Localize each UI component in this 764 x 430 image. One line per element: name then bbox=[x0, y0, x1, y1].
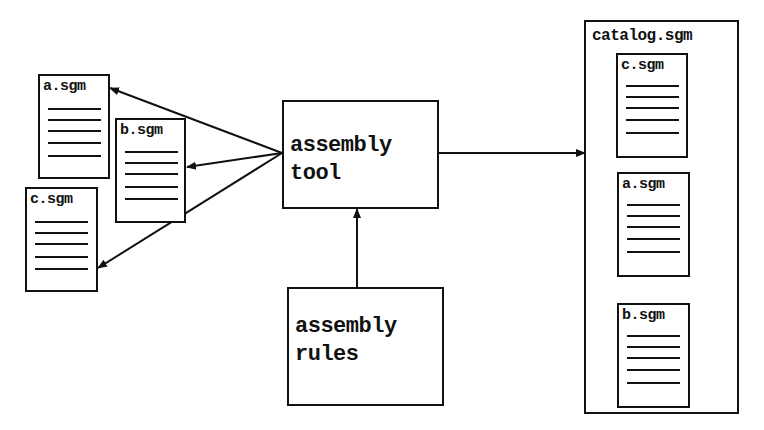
doc-text-line bbox=[125, 162, 178, 164]
arrow-tool-to-b bbox=[187, 153, 282, 167]
doc-text-line bbox=[627, 215, 680, 217]
doc-text-line bbox=[627, 238, 680, 240]
source-doc-c: c.sgm bbox=[25, 187, 98, 292]
catalog-title: catalog.sgm bbox=[592, 27, 692, 45]
doc-text-line bbox=[48, 119, 101, 121]
doc-text-line bbox=[627, 251, 680, 253]
doc-text-line bbox=[35, 232, 88, 234]
doc-text-line bbox=[125, 186, 178, 188]
doc-text-line bbox=[626, 132, 679, 134]
catalog-doc-b: b.sgm bbox=[617, 303, 690, 408]
doc-text-line bbox=[48, 108, 101, 110]
doc-title: a.sgm bbox=[622, 176, 665, 193]
doc-text-line bbox=[125, 198, 178, 200]
assembly-tool-label: assembly tool bbox=[290, 132, 392, 188]
doc-text-line bbox=[48, 155, 101, 157]
doc-text-line bbox=[626, 119, 679, 121]
doc-text-line bbox=[626, 96, 679, 98]
source-doc-a: a.sgm bbox=[38, 74, 110, 179]
catalog-doc-a: a.sgm bbox=[617, 172, 690, 277]
doc-text-line bbox=[35, 243, 88, 245]
doc-text-line bbox=[626, 85, 679, 87]
doc-title: b.sgm bbox=[622, 307, 665, 324]
doc-text-line bbox=[125, 151, 178, 153]
doc-text-line bbox=[626, 107, 679, 109]
doc-title: c.sgm bbox=[621, 57, 664, 74]
doc-text-line bbox=[35, 256, 88, 258]
doc-title: a.sgm bbox=[43, 78, 86, 95]
doc-text-line bbox=[627, 369, 680, 371]
doc-text-line bbox=[627, 346, 680, 348]
source-doc-b: b.sgm bbox=[115, 118, 186, 223]
doc-text-line bbox=[35, 268, 88, 270]
doc-text-line bbox=[125, 173, 178, 175]
doc-text-line bbox=[48, 142, 101, 144]
doc-text-line bbox=[627, 335, 680, 337]
doc-title: b.sgm bbox=[120, 122, 163, 139]
doc-text-line bbox=[48, 130, 101, 132]
catalog-container: catalog.sgm c.sgm a.sgm b.sgm bbox=[584, 20, 739, 414]
doc-text-line bbox=[627, 382, 680, 384]
doc-text-line bbox=[627, 204, 680, 206]
doc-text-line bbox=[627, 357, 680, 359]
doc-title: c.sgm bbox=[30, 191, 73, 208]
catalog-doc-c: c.sgm bbox=[616, 53, 688, 158]
doc-text-line bbox=[35, 221, 88, 223]
assembly-rules-box: assembly rules bbox=[287, 287, 444, 406]
assembly-tool-box: assembly tool bbox=[282, 100, 439, 209]
assembly-rules-label: assembly rules bbox=[295, 313, 397, 369]
doc-text-line bbox=[627, 226, 680, 228]
